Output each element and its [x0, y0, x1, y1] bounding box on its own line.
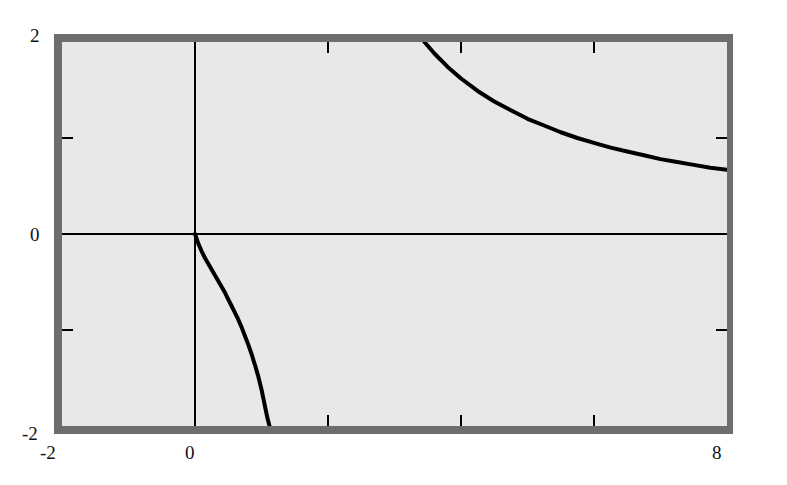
- graph-figure: 2 0 -2 -2 0 8: [0, 0, 787, 485]
- y-axis-label-zero: 0: [30, 225, 40, 244]
- x-axis-label-zero: 0: [185, 443, 195, 462]
- curve-branch-upper-right: [424, 42, 727, 170]
- plot-panel: [62, 42, 727, 426]
- axis-layer: [62, 42, 727, 426]
- curve-branch-lower-left: [195, 234, 269, 426]
- y-axis-label-bottom: -2: [22, 424, 38, 443]
- y-axis-label-top: 2: [30, 26, 40, 45]
- plot-canvas: [62, 42, 727, 426]
- x-axis-label-right: 8: [712, 443, 722, 462]
- x-axis-label-left: -2: [40, 443, 56, 462]
